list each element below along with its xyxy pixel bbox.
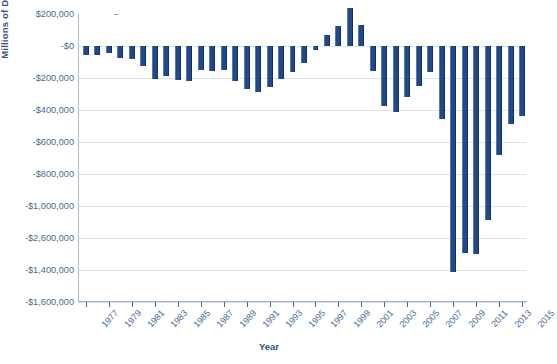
x-axis-tick-label: 2015 — [536, 308, 557, 329]
x-axis-tick-mark — [224, 302, 225, 307]
bar-2002 — [370, 46, 376, 71]
bar-2001 — [358, 25, 364, 46]
x-axis-tick-mark — [155, 302, 156, 307]
x-axis-line — [78, 301, 527, 302]
bar-1995 — [290, 46, 296, 72]
x-axis-tick-label: 1981 — [145, 308, 166, 329]
bar-1993 — [267, 46, 273, 87]
y-axis-tick-label: $200,000 — [36, 9, 78, 19]
bar-2012 — [485, 46, 491, 220]
bar-2006 — [416, 46, 422, 86]
y-axis-tick-label: -$1,600,000 — [25, 297, 78, 307]
bar-1983 — [152, 46, 158, 79]
x-axis-tick-mark — [293, 302, 294, 307]
bar-1990 — [232, 46, 238, 81]
x-axis-tick-label: 1997 — [329, 308, 350, 329]
x-axis-title: Year — [0, 341, 538, 352]
y-axis-tick-label: -$2,600,000 — [25, 233, 78, 243]
bar-1981 — [129, 46, 135, 59]
bar-1998 — [324, 35, 330, 46]
x-axis-tick-label: 1989 — [237, 308, 258, 329]
bar-1980 — [117, 46, 123, 58]
bar-1994 — [278, 46, 284, 79]
bar-2010 — [462, 46, 468, 253]
bar-2015 — [519, 46, 525, 116]
bar-1978 — [94, 46, 100, 55]
x-axis-tick-mark — [109, 302, 110, 307]
y-axis-line — [78, 14, 79, 302]
x-axis-tick-mark — [247, 302, 248, 307]
y-axis-tick-label: -$200,000 — [33, 73, 78, 83]
x-axis-tick-label: 1977 — [99, 308, 120, 329]
x-axis-tick-label: 1999 — [352, 308, 373, 329]
gridline — [78, 142, 526, 143]
x-axis-tick-mark — [361, 302, 362, 307]
gridline — [78, 270, 526, 271]
bar-2011 — [473, 46, 479, 254]
bar-1986 — [186, 46, 192, 81]
x-axis-tick-label: 2009 — [467, 308, 488, 329]
bar-2007 — [427, 46, 433, 72]
x-axis-tick-label: 1983 — [168, 308, 189, 329]
y-axis-tick-label: -$1,000,000 — [25, 201, 78, 211]
x-axis-tick-mark — [201, 302, 202, 307]
x-axis-tick-mark — [86, 302, 87, 307]
gridline — [78, 206, 526, 207]
y-axis-tick-label: -$1,400,000 — [25, 265, 78, 275]
bar-1999 — [335, 26, 341, 46]
x-axis-tick-label: 2005 — [421, 308, 442, 329]
x-axis-tick-label: 1987 — [214, 308, 235, 329]
x-axis-tick-label: 1991 — [260, 308, 281, 329]
bar-2013 — [496, 46, 502, 155]
bar-1982 — [140, 46, 146, 66]
y-axis-tick-label: -$600,000 — [33, 137, 78, 147]
x-axis-tick-label: 2003 — [398, 308, 419, 329]
x-axis-tick-label: 2013 — [513, 308, 534, 329]
bar-2014 — [508, 46, 514, 124]
x-axis-tick-label: 1993 — [283, 308, 304, 329]
bar-1987 — [198, 46, 204, 70]
bar-2005 — [404, 46, 410, 97]
x-axis-tick-label: 2011 — [489, 308, 510, 329]
bar-1997 — [313, 46, 319, 50]
y-axis-tick-label: -$800,000 — [33, 169, 78, 179]
x-axis-tick-mark — [430, 302, 431, 307]
x-axis-tick-mark — [476, 302, 477, 307]
bar-1977 — [83, 46, 89, 55]
bar-1985 — [175, 46, 181, 80]
gridline — [78, 238, 526, 239]
gridline — [78, 78, 526, 79]
x-axis-tick-mark — [178, 302, 179, 307]
x-axis-tick-label: 2007 — [444, 308, 465, 329]
x-axis-tick-mark — [453, 302, 454, 307]
bar-1984 — [163, 46, 169, 76]
bar-1988 — [209, 46, 215, 71]
plot-area — [78, 14, 526, 302]
bar-1979 — [106, 46, 112, 53]
x-axis-tick-mark — [315, 302, 316, 307]
x-axis-tick-mark — [132, 302, 133, 307]
gridline — [78, 302, 526, 303]
x-axis-tick-mark — [407, 302, 408, 307]
y-axis-tick-label: -$0 — [61, 41, 78, 51]
x-axis-tick-label: 1979 — [122, 308, 143, 329]
bar-2009 — [450, 46, 456, 272]
x-axis-tick-label: 1995 — [306, 308, 327, 329]
bar-1992 — [255, 46, 261, 92]
bar-1996 — [301, 46, 307, 63]
y-axis-tick-label: -$400,000 — [33, 105, 78, 115]
x-axis-tick-mark — [522, 302, 523, 307]
bar-2000 — [347, 8, 353, 46]
x-axis-tick-mark — [499, 302, 500, 307]
bar-2003 — [381, 46, 387, 106]
x-axis-tick-mark — [384, 302, 385, 307]
bar-2004 — [393, 46, 399, 112]
y-axis-tick-labels: $200,000-$0-$200,000-$400,000-$600,000-$… — [0, 0, 78, 364]
x-axis-tick-label: 1985 — [191, 308, 212, 329]
x-axis-tick-mark — [338, 302, 339, 307]
gridline — [78, 110, 526, 111]
x-axis-tick-label: 2001 — [375, 308, 396, 329]
bar-2008 — [439, 46, 445, 119]
bar-1991 — [244, 46, 250, 89]
